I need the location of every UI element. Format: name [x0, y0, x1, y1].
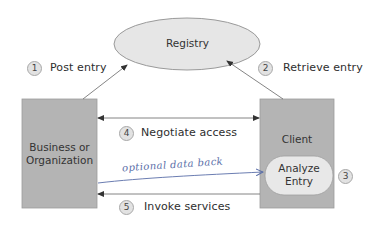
analyze-label-line2: Entry: [265, 175, 333, 188]
analyze-label-line1: Analyze: [265, 162, 333, 175]
business-label-line2: Organization: [22, 154, 97, 167]
business-label: Business or Organization: [22, 141, 97, 167]
retrieve-entry-arrow: [227, 61, 283, 99]
step-3-badge: 3: [338, 169, 353, 184]
step-2-badge: 2: [258, 61, 273, 76]
optional-data-back-arrow: [98, 172, 263, 183]
analyze-entry-label: Analyze Entry: [265, 162, 333, 188]
step-4-badge: 4: [119, 126, 134, 141]
step-1-badge: 1: [27, 61, 42, 76]
step-5-badge: 5: [119, 200, 134, 215]
client-label: Client: [260, 133, 334, 146]
registry-label: Registry: [150, 37, 225, 50]
business-label-line1: Business or: [22, 141, 97, 154]
step-4-label: Negotiate access: [141, 126, 237, 139]
step-2-label: Retrieve entry: [283, 61, 363, 74]
diagram-canvas: [0, 0, 376, 229]
step-5-label: Invoke services: [144, 200, 230, 213]
step-1-label: Post entry: [50, 61, 107, 74]
